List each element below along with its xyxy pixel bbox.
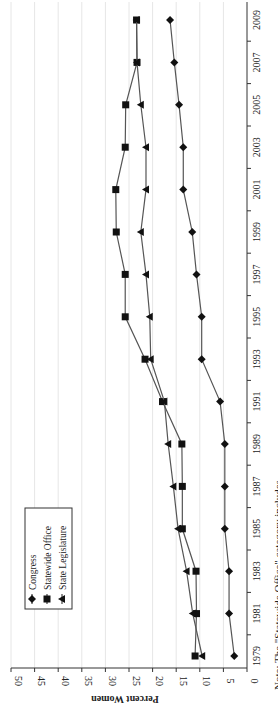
diamond-marker (221, 525, 229, 533)
line-chart: 05101520253035404550Percent Women1979198… (0, 0, 278, 713)
value-axis-label: 50 (13, 676, 24, 686)
category-axis-label: 1983 (251, 561, 262, 581)
category-axis-label: 1981 (251, 604, 262, 624)
diamond-marker (225, 610, 233, 618)
value-axis-label: 30 (107, 676, 118, 686)
diamond-marker (179, 186, 187, 194)
square-marker (122, 144, 129, 151)
value-axis-label: 0 (249, 679, 260, 684)
category-axis-label: 1989 (251, 434, 262, 454)
diamond-marker (221, 482, 229, 490)
value-axis-label: 10 (201, 676, 212, 686)
value-axis-label: 20 (154, 676, 165, 686)
legend: CongressStatewide OfficeState Legislatur… (25, 508, 72, 609)
diamond-marker (179, 143, 187, 151)
diamond-marker (170, 58, 178, 66)
square-marker (112, 186, 119, 193)
category-axis-label: 1991 (251, 392, 262, 412)
legend-label: State Legislature (58, 526, 68, 590)
category-axis-label: 1985 (251, 519, 262, 539)
square-marker (122, 271, 129, 278)
value-axis-label: 35 (83, 676, 94, 686)
square-marker (122, 313, 129, 320)
series-line (170, 20, 234, 656)
data-series (112, 16, 238, 660)
diamond-marker (198, 313, 206, 321)
category-axis-label: 1999 (251, 222, 262, 242)
diamond-marker (230, 652, 238, 660)
category-axis-label: 2001 (251, 180, 262, 200)
diamond-marker (188, 228, 196, 236)
category-axis-label: 1997 (251, 264, 262, 284)
category-axis-label: 1995 (251, 307, 262, 327)
diamond-marker (216, 398, 224, 406)
legend-label: Statewide Office (43, 526, 53, 590)
diamond-marker (225, 567, 233, 575)
category-axis-label: 2007 (251, 52, 262, 72)
diamond-marker (198, 355, 206, 363)
value-axis-title: Percent Women (91, 694, 159, 705)
category-axis-label: 1987 (251, 476, 262, 496)
series-state-legislature (133, 16, 206, 660)
diamond-marker (221, 440, 229, 448)
chart-note: Note: The "Statewide Office" category in… (272, 480, 278, 690)
category-axis-label: 2005 (251, 95, 262, 115)
square-marker (113, 229, 120, 236)
category-axis-label: 1993 (251, 349, 262, 369)
value-axis-label: 15 (178, 676, 189, 686)
category-axis-label: 1979 (251, 646, 262, 666)
value-axis-label: 40 (60, 676, 71, 686)
square-marker (193, 568, 200, 575)
square-marker (179, 483, 186, 490)
triangle-marker (137, 228, 144, 236)
value-axis-label: 45 (36, 676, 47, 686)
series-statewide-office (112, 17, 200, 660)
square-marker (192, 653, 199, 660)
diamond-marker (166, 16, 174, 24)
category-axis-label: 2009 (251, 10, 262, 30)
square-marker (44, 596, 51, 603)
square-marker (122, 101, 129, 108)
value-axis-label: 5 (225, 679, 236, 684)
series-congress (166, 16, 238, 660)
category-axis-label: 2003 (251, 137, 262, 157)
value-axis-label: 25 (131, 676, 142, 686)
legend-label: Congress (28, 554, 38, 590)
square-marker (178, 441, 185, 448)
diamond-marker (192, 270, 200, 278)
